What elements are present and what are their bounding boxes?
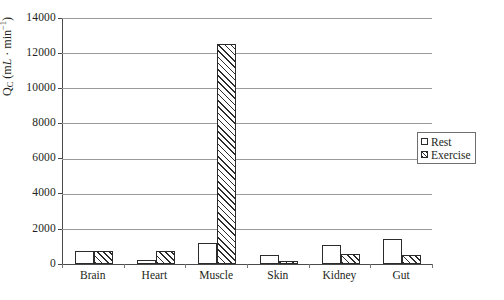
bar-group-muscle — [185, 18, 247, 264]
y-axis-title-units-close: ) — [0, 17, 14, 21]
bar-heart-rest — [137, 260, 156, 264]
chart-figure: 14000 12000 10000 8000 6000 4000 2000 0 … — [0, 0, 504, 300]
y-axis-title-units-mid: · min — [0, 30, 14, 59]
y-tick-label: 4000 — [10, 187, 56, 199]
x-label-kidney: Kidney — [309, 268, 371, 282]
bar-skin-exercise — [279, 261, 298, 265]
chart-legend: Rest Exercise — [417, 132, 476, 164]
y-tick-label: 10000 — [10, 82, 56, 94]
bar-brain-rest — [75, 251, 94, 264]
legend-label-exercise: Exercise — [431, 149, 471, 161]
y-tick-label: 0 — [10, 258, 56, 270]
y-tick-label: 6000 — [10, 152, 56, 164]
open-square-icon — [421, 138, 428, 145]
legend-item-rest: Rest — [421, 135, 471, 148]
y-tick-label: 8000 — [10, 117, 56, 129]
x-label-heart: Heart — [124, 268, 186, 282]
y-axis-title-units-litre: L — [0, 59, 14, 66]
bar-kidney-exercise — [341, 254, 360, 265]
y-tick-label: 12000 — [10, 47, 56, 59]
y-axis-title-units-open: (m — [0, 65, 14, 81]
bar-group-skin — [247, 18, 309, 264]
bar-heart-exercise — [156, 251, 175, 264]
x-label-brain: Brain — [62, 268, 124, 282]
plot-area — [62, 18, 432, 264]
y-axis-title: Q̇C (mL · min−1) — [0, 0, 15, 96]
y-axis-title-symbol: Q̇ — [0, 87, 14, 96]
y-axis-title-units-exponent: −1 — [0, 21, 8, 30]
bar-muscle-exercise — [217, 44, 236, 264]
y-tick-label: 2000 — [10, 223, 56, 235]
bar-brain-exercise — [94, 251, 113, 264]
y-tick-label: 14000 — [10, 12, 56, 24]
bar-group-kidney — [309, 18, 371, 264]
x-label-skin: Skin — [247, 268, 309, 282]
bar-group-brain — [62, 18, 124, 264]
bar-group-heart — [124, 18, 186, 264]
x-label-gut: Gut — [370, 268, 432, 282]
hatched-square-icon — [421, 151, 428, 158]
bar-kidney-rest — [322, 245, 341, 264]
bar-muscle-rest — [198, 243, 217, 264]
bar-skin-rest — [260, 255, 279, 264]
bar-gut-exercise — [402, 255, 421, 264]
legend-item-exercise: Exercise — [421, 148, 471, 161]
legend-label-rest: Rest — [431, 136, 451, 148]
bar-gut-rest — [383, 239, 402, 265]
x-label-muscle: Muscle — [185, 268, 247, 282]
x-tick-mark — [432, 264, 433, 268]
